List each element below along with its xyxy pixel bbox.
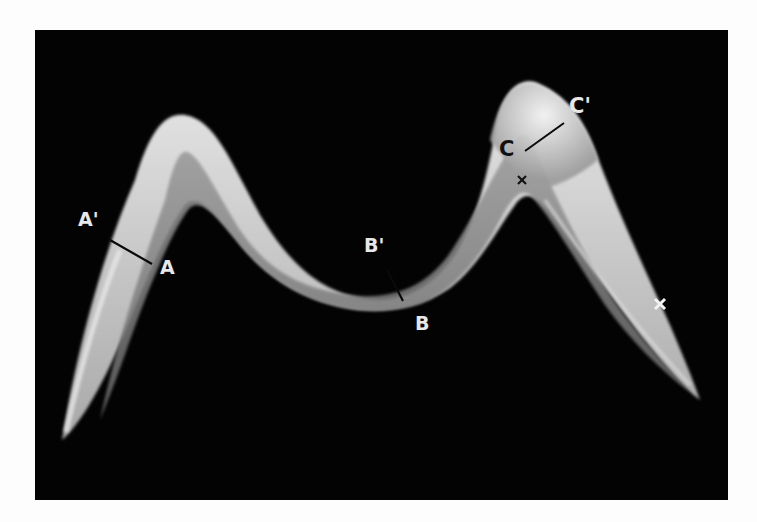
- label-c: C: [499, 139, 514, 160]
- label-b-prime: B': [364, 236, 384, 255]
- label-a: A: [160, 258, 175, 277]
- label-c-prime: C': [569, 96, 591, 117]
- m-shaped-band-illustration: [0, 0, 757, 522]
- label-a-prime: A': [78, 210, 99, 229]
- label-b: B: [415, 314, 429, 333]
